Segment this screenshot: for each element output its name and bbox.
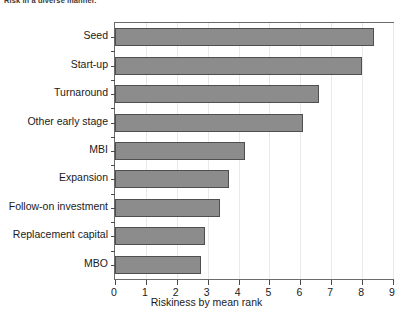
x-tick — [331, 280, 332, 285]
y-axis-label: MBI — [89, 144, 108, 155]
bar-row — [115, 194, 393, 222]
bar-row — [115, 51, 393, 79]
y-tick — [111, 208, 115, 209]
y-tick — [111, 37, 115, 38]
x-tick — [393, 280, 394, 285]
x-tick — [269, 280, 270, 285]
x-tick — [300, 280, 301, 285]
y-axis-label: Follow-on investment — [9, 201, 108, 212]
y-axis-label: Replacement capital — [13, 229, 108, 240]
x-tick — [362, 280, 363, 285]
bar-row — [115, 137, 393, 165]
bar-row — [115, 165, 393, 193]
y-axis-label: MBO — [84, 258, 108, 269]
y-tick — [111, 236, 115, 237]
bar-chart-figure: Risk in a diverse manner. SeedStart-upTu… — [0, 0, 413, 326]
y-tick — [111, 123, 115, 124]
bar-row — [115, 80, 393, 108]
y-axis-label: Expansion — [59, 172, 108, 183]
x-tick — [239, 280, 240, 285]
x-axis-title: Riskiness by mean rank — [0, 296, 413, 308]
bar-row — [115, 108, 393, 136]
y-tick — [111, 94, 115, 95]
bar — [115, 199, 220, 217]
x-tick — [177, 280, 178, 285]
y-tick — [111, 151, 115, 152]
y-tick-minor — [111, 80, 115, 81]
gridline — [393, 23, 394, 279]
y-tick-minor — [111, 165, 115, 166]
y-axis-label: Other early stage — [27, 116, 108, 127]
x-tick — [146, 280, 147, 285]
bar — [115, 57, 362, 75]
caption-fragment: Risk in a diverse manner. — [4, 0, 204, 5]
y-axis-label: Turnaround — [54, 87, 108, 98]
bar — [115, 114, 303, 132]
bar — [115, 170, 229, 188]
y-tick — [111, 66, 115, 67]
bar-row — [115, 23, 393, 51]
y-axis-label: Start-up — [71, 59, 108, 70]
y-axis-label: Seed — [83, 30, 108, 41]
bar-row — [115, 222, 393, 250]
bar — [115, 256, 201, 274]
x-tick — [115, 280, 116, 285]
y-tick-minor — [111, 251, 115, 252]
bar — [115, 28, 374, 46]
plot-area — [114, 22, 394, 280]
y-tick-minor — [111, 51, 115, 52]
y-tick — [111, 179, 115, 180]
x-tick — [208, 280, 209, 285]
bar-row — [115, 251, 393, 279]
bar — [115, 227, 205, 245]
y-tick — [111, 265, 115, 266]
y-tick-minor — [111, 108, 115, 109]
y-tick-minor — [111, 194, 115, 195]
bar — [115, 85, 319, 103]
y-tick-minor — [111, 222, 115, 223]
y-tick-minor — [111, 137, 115, 138]
bar — [115, 142, 245, 160]
